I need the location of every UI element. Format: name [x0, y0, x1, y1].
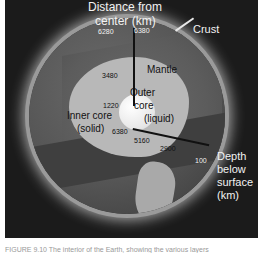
depth-title-line3: surface [217, 177, 253, 188]
distance-label-surface: 6380 [134, 27, 150, 34]
figure-caption: FIGURE 9.10 The interior of the Earth, s… [5, 246, 258, 253]
distance-title-line2: center (km) [95, 15, 156, 27]
depth-label-center: 6380 [112, 128, 128, 135]
depth-label-inner-core: 5160 [134, 137, 150, 144]
outer-core-label-line3: (liquid) [144, 114, 174, 124]
distance-label-core-mantle: 3480 [102, 72, 118, 79]
crust-label: Crust [193, 24, 219, 35]
depth-label-core-mantle: 2900 [160, 145, 176, 152]
outer-core-label-line1: Outer [130, 88, 155, 98]
inner-core-label-line2: (solid) [77, 124, 104, 134]
mantle-label: Mantle [147, 65, 177, 75]
depth-title-line2: below [217, 164, 246, 175]
inner-core-label-line1: Inner core [67, 111, 112, 121]
depth-label-crust-base: 100 [195, 157, 207, 164]
diagram-frame: Distance from center (km) 6280 6380 Crus… [5, 0, 258, 238]
distance-label-inner-core: 1220 [103, 102, 119, 109]
outer-core-label-line2: core [134, 101, 153, 111]
distance-title-line1: Distance from [88, 1, 162, 13]
depth-title-line1: Depth [217, 151, 246, 162]
distance-label-crust-base: 6280 [98, 28, 114, 35]
depth-title-line4: (km) [217, 190, 239, 201]
